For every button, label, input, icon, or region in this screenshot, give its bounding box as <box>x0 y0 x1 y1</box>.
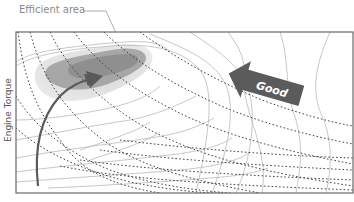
efficiency-map-diagram: Efficient area <box>0 0 354 202</box>
y-axis-label: Engine Torque <box>3 78 13 142</box>
efficient-area-label: Efficient area <box>19 4 85 15</box>
